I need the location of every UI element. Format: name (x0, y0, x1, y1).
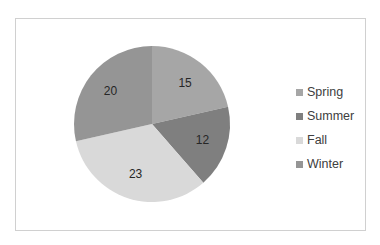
legend-swatch (296, 89, 303, 96)
data-label-winter: 20 (104, 84, 118, 98)
legend-label: Fall (307, 133, 327, 147)
legend-item-spring: Spring (296, 80, 354, 104)
pie-slices (74, 46, 230, 202)
legend-label: Winter (307, 157, 343, 171)
legend-swatch (296, 161, 303, 168)
data-label-fall: 23 (129, 167, 143, 181)
legend: Spring Summer Fall Winter (296, 80, 354, 176)
legend-label: Spring (307, 85, 343, 99)
data-label-spring: 15 (178, 76, 192, 90)
legend-item-summer: Summer (296, 104, 354, 128)
legend-swatch (296, 137, 303, 144)
legend-item-fall: Fall (296, 128, 354, 152)
data-label-summer: 12 (196, 133, 210, 147)
legend-label: Summer (307, 109, 354, 123)
legend-item-winter: Winter (296, 152, 354, 176)
legend-swatch (296, 113, 303, 120)
